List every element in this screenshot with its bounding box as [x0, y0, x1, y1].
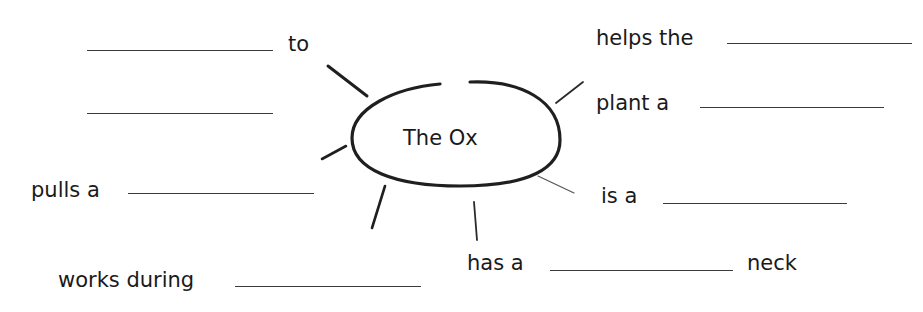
item-text-before: pulls a: [31, 180, 100, 201]
answer-blank[interactable]: [550, 270, 733, 271]
spoke-upper-right: [556, 82, 583, 103]
item-text-after: neck: [747, 253, 797, 274]
center-label: The Ox: [403, 128, 478, 149]
item-text-before: works during: [58, 270, 194, 291]
answer-blank[interactable]: [663, 203, 847, 204]
spoke-bottom: [474, 202, 477, 240]
answer-blank[interactable]: [235, 286, 421, 287]
answer-blank[interactable]: [727, 43, 912, 44]
item-text-before: plant a: [596, 93, 669, 114]
spoke-lower-right: [538, 176, 574, 193]
ox-word-web: The Ox to pulls a works during helps the…: [0, 0, 923, 312]
item-text-before: is a: [601, 186, 637, 207]
spoke-lower-left: [372, 186, 385, 228]
answer-blank[interactable]: [128, 193, 314, 194]
item-text-before: has a: [467, 253, 524, 274]
answer-blank[interactable]: [700, 107, 884, 108]
item-text-after: to: [288, 34, 309, 55]
answer-blank[interactable]: [87, 50, 273, 51]
spoke-left: [322, 146, 346, 159]
spoke-upper-left: [328, 66, 367, 96]
answer-blank[interactable]: [87, 113, 273, 114]
item-text-before: helps the: [596, 28, 693, 49]
